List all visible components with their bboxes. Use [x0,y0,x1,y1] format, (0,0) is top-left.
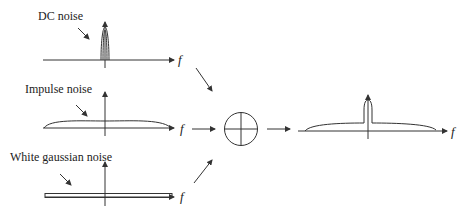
white-gaussian-noise-spectrum [45,162,174,206]
impulse-noise-pointer-arrow [76,105,87,116]
output-spectrum [298,95,447,139]
white-f-axis-label: f [180,189,184,205]
dc-to-sum-arrow [196,68,212,91]
white-noise-pointer-arrow [60,174,71,185]
noise-sum-diagram [0,0,470,220]
dc-noise-spectrum [43,22,174,68]
output-f-axis-label: f [451,124,455,140]
impulse-f-axis-label: f [180,121,184,137]
circle-plus-icon [225,113,258,146]
dc-noise-label: DC noise [38,9,83,24]
white-gaussian-noise-label: White gaussian noise [10,150,112,165]
impulse-noise-label: Impulse noise [25,82,92,97]
dc-noise-pointer-arrow [78,28,89,39]
white-to-sum-arrow [194,160,212,183]
impulse-noise-spectrum [43,92,174,136]
dc-f-axis-label: f [178,52,182,68]
